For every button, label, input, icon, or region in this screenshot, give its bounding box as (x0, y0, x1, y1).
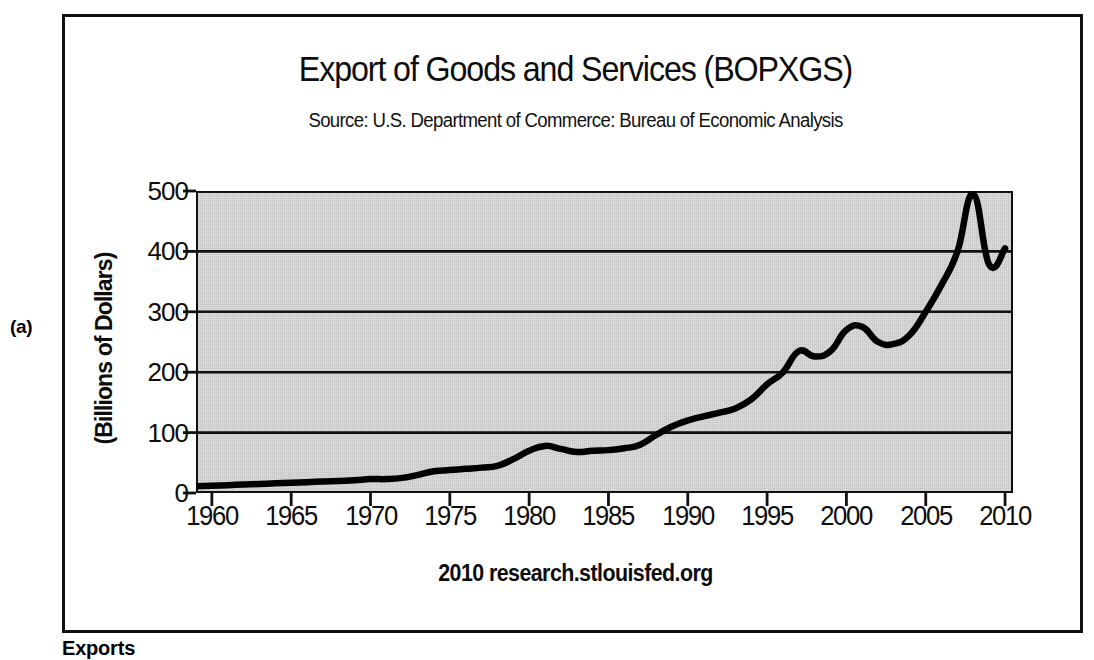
plot-svg (196, 191, 1013, 493)
figure-frame: Export of Goods and Services (BOPXGS) So… (62, 14, 1083, 633)
chart-title: Export of Goods and Services (BOPXGS) (106, 49, 1045, 89)
y-tick-label: 100 (124, 417, 188, 448)
y-tick-label: 500 (124, 176, 188, 207)
x-tick-label: 2010 (953, 501, 1058, 532)
series-path (196, 194, 1005, 486)
y-tick-label: 300 (124, 296, 188, 327)
chart-subtitle-source: Source: U.S. Department of Commerce: Bur… (101, 109, 1051, 132)
plot-region (196, 191, 1013, 493)
y-tick-label: 200 (124, 357, 188, 388)
y-axis-tick-labels: 0100200300400500 (110, 191, 188, 493)
chart-footer-source: 2010 research.stlouisfed.org (101, 560, 1051, 587)
data-series-line (196, 194, 1005, 486)
y-tick-label: 400 (124, 236, 188, 267)
figure-caption: Exports (62, 637, 135, 660)
figure-panel-label: (a) (10, 316, 32, 338)
x-axis-tick-labels: 1960196519701975198019851990199520002005… (196, 501, 1013, 541)
